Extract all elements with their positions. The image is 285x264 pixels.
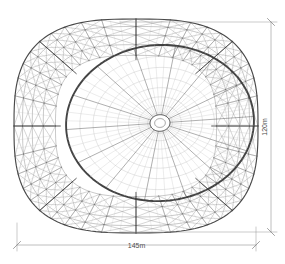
figure-caption bbox=[0, 257, 285, 264]
dome-plan-drawing: 145m 120m bbox=[0, 0, 285, 264]
vertical-dimension-label: 120m bbox=[261, 118, 268, 136]
inner-dome-structure bbox=[66, 45, 254, 201]
figure-root: 145m 120m bbox=[0, 0, 285, 264]
outer-shell-structure bbox=[14, 19, 258, 233]
